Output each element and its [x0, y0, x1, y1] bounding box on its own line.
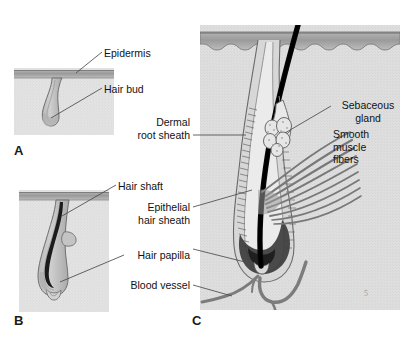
label-sebaceous-gland: Sebaceous gland	[331, 99, 405, 124]
label-smooth-muscle-fibers-line3: fibers	[333, 153, 405, 166]
label-hair-bud: Hair bud	[104, 83, 144, 96]
panel-letter-c: C	[192, 313, 202, 328]
corner-figure-mark: 5	[364, 289, 368, 298]
panel-c-artwork: 5	[200, 18, 400, 314]
label-epithelial-hair-sheath-line1: Epithelial	[60, 201, 190, 214]
label-blood-vessel: Blood vessel	[56, 279, 190, 292]
panel-letter-a: A	[14, 143, 24, 158]
label-epithelial-hair-sheath: Epithelial hair sheath	[60, 201, 190, 226]
label-epithelial-hair-sheath-line2: hair sheath	[60, 214, 190, 227]
label-sebaceous-gland-line1: Sebaceous	[331, 99, 405, 112]
label-dermal-root-sheath-line1: Dermal	[58, 116, 190, 129]
label-dermal-root-sheath-line2: root sheath	[58, 129, 190, 142]
panel-letter-b: B	[14, 313, 24, 328]
label-smooth-muscle-fibers-line1: Smooth	[333, 128, 405, 141]
label-epidermis: Epidermis	[104, 47, 151, 60]
figure-canvas: 5 Epidermis Hair bud Dermal	[0, 0, 405, 342]
label-smooth-muscle-fibers: Smooth muscle fibers	[333, 128, 405, 166]
label-sebaceous-gland-line2: gland	[331, 112, 405, 125]
label-hair-papilla: Hair papilla	[60, 249, 190, 262]
label-hair-shaft: Hair shaft	[118, 180, 163, 193]
label-dermal-root-sheath: Dermal root sheath	[58, 116, 190, 141]
label-smooth-muscle-fibers-line2: muscle	[333, 141, 405, 154]
